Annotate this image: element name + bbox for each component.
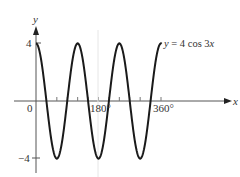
cosine-chart: y x 4 −4 0 180° 360° y = 4 cos 3x [0, 0, 240, 177]
x-tick-label-180: 180° [90, 102, 111, 114]
plot-area: y x 4 −4 0 180° 360° y = 4 cos 3x [0, 0, 240, 177]
x-ticks [46, 97, 161, 101]
y-axis-label: y [32, 13, 38, 25]
y-tick-label-neg4: −4 [18, 152, 30, 164]
x-tick-label-0: 0 [27, 102, 33, 114]
function-label: y = 4 cos 3x [163, 38, 215, 49]
y-tick-label-4: 4 [26, 37, 32, 49]
x-axis-label: x [232, 95, 238, 107]
y-axis-arrow-icon [33, 26, 39, 35]
x-axis-arrow-icon [224, 98, 232, 104]
x-tick-label-360: 360° [153, 102, 174, 114]
